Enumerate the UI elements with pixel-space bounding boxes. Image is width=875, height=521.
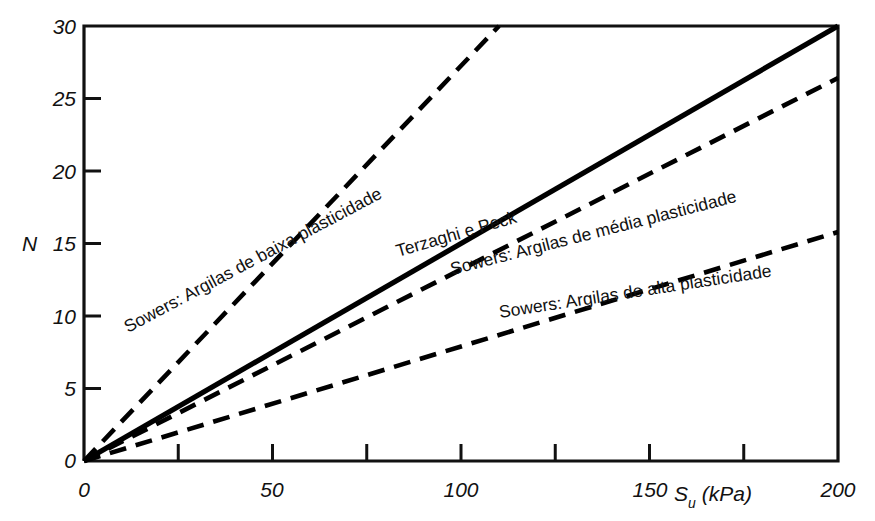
chart-svg: 0 5 10 15 20 25 30 0 50 100 150 200 N Su… [0, 0, 875, 521]
x-tick-label-100: 100 [443, 478, 478, 501]
y-tick-label-0: 0 [64, 449, 76, 472]
chart-figure: 0 5 10 15 20 25 30 0 50 100 150 200 N Su… [0, 0, 875, 521]
y-tick-label-15: 15 [53, 232, 77, 255]
y-tick-label-5: 5 [64, 377, 76, 400]
y-tick-label-20: 20 [52, 160, 77, 183]
y-tick-label-25: 25 [52, 87, 77, 110]
x-axis-title-unit: (kPa) [696, 482, 752, 505]
x-tick-label-200: 200 [819, 478, 855, 501]
x-axis-title-main: S [674, 482, 688, 505]
y-axis-title: N [22, 232, 38, 255]
x-axis-title-subscript: u [688, 495, 696, 511]
y-tick-label-30: 30 [53, 15, 77, 38]
x-tick-label-0: 0 [78, 478, 90, 501]
x-tick-label-150: 150 [632, 478, 667, 501]
x-tick-label-50: 50 [260, 478, 284, 501]
y-tick-label-10: 10 [53, 305, 77, 328]
